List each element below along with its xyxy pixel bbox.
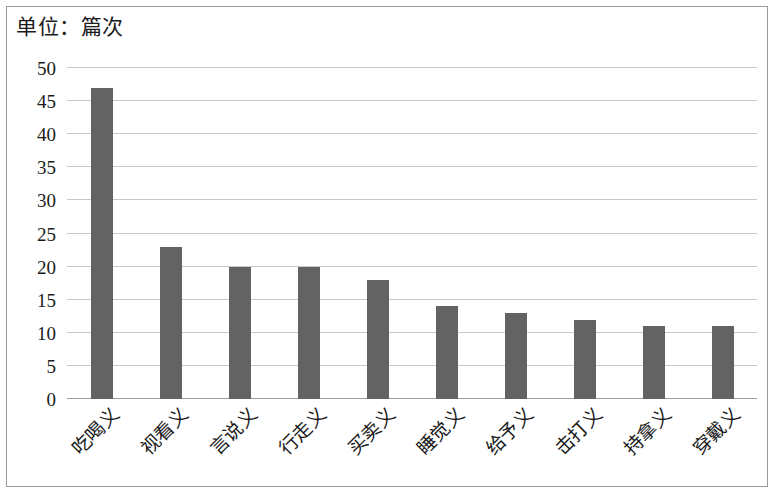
x-axis-tick-label: 吃喝义 [64,404,123,463]
y-axis-tick-label: 10 [12,323,56,342]
y-axis-labels: 50454035302520151050 [8,68,56,399]
chart-title: 单位：篇次 [16,14,124,40]
gridline [67,166,757,167]
x-axis-tick-label: 行走义 [271,404,330,463]
y-axis-tick-label: 20 [12,257,56,276]
x-axis-tick-label: 言说义 [202,404,261,463]
gridline [67,199,757,200]
x-axis-labels: 吃喝义视看义言说义行走义买卖义睡觉义给予义击打义持拿义穿戴义 [67,402,757,492]
y-axis-tick-label: 0 [12,390,56,409]
gridline [67,100,757,101]
bar [574,320,596,399]
bar [91,88,113,399]
gridline [67,133,757,134]
bar [712,326,734,399]
bar [505,313,527,399]
bar [436,306,458,399]
bar [367,280,389,399]
y-axis-tick-label: 15 [12,290,56,309]
gridline [67,233,757,234]
bar [160,247,182,399]
bar [298,267,320,399]
x-axis-tick-label: 给予义 [478,404,537,463]
x-axis-tick-label: 击打义 [547,404,606,463]
x-axis-tick-label: 视看义 [133,404,192,463]
y-axis-tick-label: 45 [12,92,56,111]
x-axis-tick-label: 睡觉义 [409,404,468,463]
bar [643,326,665,399]
chart-figure: 单位：篇次 50454035302520151050 吃喝义视看义言说义行走义买… [0,0,775,497]
x-axis-tick-label: 穿戴义 [685,404,744,463]
y-axis-tick-label: 25 [12,224,56,243]
y-axis-tick-label: 40 [12,125,56,144]
y-axis-tick-label: 35 [12,158,56,177]
x-axis-tick-label: 持拿义 [616,404,675,463]
plot-area [67,68,757,399]
y-axis-tick-label: 5 [12,356,56,375]
y-axis-tick-label: 30 [12,191,56,210]
bar [229,267,251,399]
x-axis-tick-label: 买卖义 [340,404,399,463]
y-axis-tick-label: 50 [12,59,56,78]
gridline [67,67,757,68]
